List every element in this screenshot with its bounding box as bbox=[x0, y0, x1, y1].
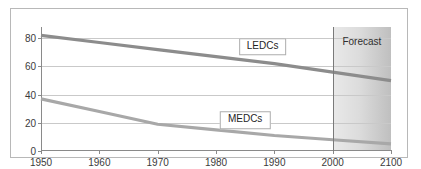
y-tick-label: 20 bbox=[25, 117, 36, 128]
y-tick-label: 80 bbox=[25, 33, 36, 44]
chart-frame: 020406080 1950196019701980199020002100 F… bbox=[10, 8, 408, 158]
series-label-ledcs: LEDCs bbox=[239, 38, 287, 56]
x-tick-label: 1990 bbox=[263, 157, 285, 168]
x-tick-label: 2100 bbox=[380, 157, 402, 168]
y-tick-label: 60 bbox=[25, 61, 36, 72]
series-label-medcs: MEDCs bbox=[220, 111, 270, 129]
x-tick-label: 2000 bbox=[322, 157, 344, 168]
forecast-label: Forecast bbox=[342, 36, 381, 47]
series-line-ledcs bbox=[41, 35, 391, 80]
x-tick-label: 1970 bbox=[147, 157, 169, 168]
series-lines bbox=[41, 27, 391, 151]
forecast-divider-line bbox=[333, 27, 334, 151]
plot-area: 020406080 1950196019701980199020002100 F… bbox=[41, 27, 391, 151]
y-tick-label: 0 bbox=[30, 146, 36, 157]
series-line-medcs bbox=[41, 99, 391, 144]
x-tick-mark bbox=[391, 150, 392, 154]
x-tick-label: 1980 bbox=[205, 157, 227, 168]
y-tick-label: 40 bbox=[25, 89, 36, 100]
x-tick-label: 1960 bbox=[88, 157, 110, 168]
x-tick-label: 1950 bbox=[30, 157, 52, 168]
